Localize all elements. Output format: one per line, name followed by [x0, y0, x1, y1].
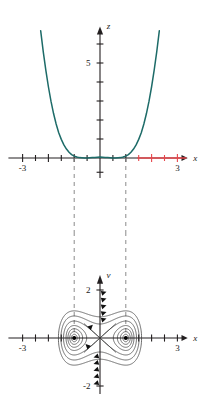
top-z-tick-label-5: 5 [86, 58, 91, 68]
top-z-axis-arrowhead [97, 27, 103, 35]
flow-arrow-lower [94, 374, 100, 379]
bottom-v-axis-arrowhead [97, 275, 103, 284]
bottom-v-tick-label-neg2: -2 [83, 381, 91, 391]
top-x-tick-label-neg3: -3 [19, 163, 27, 173]
flow-arrow-upper [101, 298, 107, 303]
top-x-tick-label-3: 3 [175, 163, 180, 173]
bottom-x-axis-arrowhead [182, 335, 188, 341]
bottom-x-axis-label: x [192, 333, 197, 343]
flow-arrow-upper [101, 318, 107, 323]
top-x-axis-label: x [192, 153, 197, 163]
equilibrium-center-dot [72, 336, 76, 340]
figure-container: zx5-33vx2-2-33 [0, 0, 203, 394]
bottom-x-tick-label-neg3: -3 [19, 343, 27, 353]
bottom-v-tick-label-2: 2 [86, 285, 91, 295]
flow-arrow-upper [101, 291, 107, 296]
bottom-x-tick-label-3: 3 [175, 343, 180, 353]
bottom-v-axis-label: v [107, 270, 111, 280]
top-z-axis-label: z [106, 21, 111, 31]
flow-arrow-lower [94, 367, 100, 372]
flow-arrow-lower [94, 380, 100, 385]
flow-arrow-upper [101, 304, 107, 309]
figure-svg: zx5-33vx2-2-33 [0, 0, 203, 394]
flow-arrow-lower [94, 360, 100, 365]
flow-arrow-upper [101, 311, 107, 316]
equilibrium-center-dot [124, 336, 128, 340]
flow-arrow-lower [94, 353, 100, 358]
